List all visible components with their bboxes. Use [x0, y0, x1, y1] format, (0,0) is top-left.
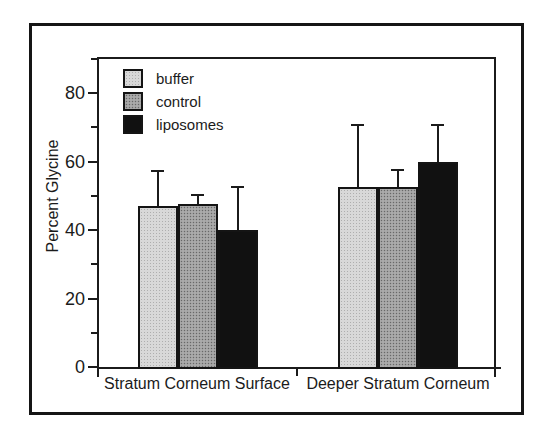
- y-tick-label-20: 20: [37, 288, 85, 310]
- error-cap-buffer-group-1: [351, 124, 364, 126]
- x-axis-right-overshoot: [496, 367, 501, 369]
- bar-buffer-group-1: [338, 187, 378, 369]
- bar-control-group-1: [378, 187, 418, 369]
- error-bar-liposomes-group-1: [437, 124, 439, 164]
- figure: Percent Glycine buffer control liposomes…: [0, 0, 546, 435]
- error-cap-control-group-0: [191, 194, 204, 196]
- y-tick-label-40: 40: [37, 219, 85, 241]
- error-bar-control-group-1: [397, 169, 399, 190]
- bar-liposomes-group-1: [418, 162, 458, 369]
- error-cap-control-group-1: [391, 169, 404, 171]
- bar-liposomes-group-0: [218, 230, 258, 369]
- legend-swatch-buffer: [123, 69, 143, 88]
- legend-item-liposomes: liposomes: [123, 115, 224, 134]
- error-cap-liposomes-group-1: [431, 124, 444, 126]
- y-minor-tick-30: [91, 263, 97, 265]
- y-minor-tick-50: [91, 195, 97, 197]
- legend-swatch-liposomes: [123, 115, 143, 134]
- y-minor-tick-70: [91, 126, 97, 128]
- y-tick-0: [88, 366, 97, 368]
- legend-swatch-control: [123, 92, 143, 111]
- y-tick-20: [88, 298, 97, 300]
- legend-item-control: control: [123, 92, 224, 111]
- legend-label-liposomes: liposomes: [156, 115, 224, 134]
- bar-buffer-group-0: [138, 206, 178, 369]
- legend-item-buffer: buffer: [123, 69, 224, 88]
- error-cap-buffer-group-0: [151, 170, 164, 172]
- error-bar-liposomes-group-0: [237, 186, 239, 232]
- legend: buffer control liposomes: [123, 69, 224, 138]
- error-bar-buffer-group-1: [357, 124, 359, 189]
- legend-label-control: control: [156, 92, 201, 111]
- y-minor-tick-10: [91, 332, 97, 334]
- y-tick-60: [88, 161, 97, 163]
- error-cap-liposomes-group-0: [231, 186, 244, 188]
- error-bar-buffer-group-0: [157, 170, 159, 208]
- y-tick-label-80: 80: [37, 82, 85, 104]
- y-minor-tick-90: [91, 58, 97, 60]
- legend-label-buffer: buffer: [156, 69, 194, 88]
- y-tick-label-60: 60: [37, 151, 85, 173]
- plot-area: buffer control liposomes 020406080: [97, 57, 496, 369]
- y-tick-80: [88, 92, 97, 94]
- bar-control-group-0: [178, 204, 218, 369]
- y-tick-40: [88, 229, 97, 231]
- category-label-deeper-stratum-corneum: Deeper Stratum Corneum: [268, 374, 528, 394]
